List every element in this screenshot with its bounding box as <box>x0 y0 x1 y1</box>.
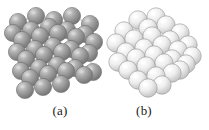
amorphous-cluster-svg <box>104 0 208 104</box>
crystalline-lattice-svg <box>0 0 104 104</box>
lattice-sphere <box>34 78 51 95</box>
panel-crystalline <box>0 0 104 104</box>
lattice-sphere <box>75 66 92 83</box>
amorphous-sphere-group <box>107 8 201 97</box>
lattice-sphere <box>52 75 69 92</box>
caption-b: (b) <box>92 100 196 122</box>
panel-amorphous <box>104 0 208 104</box>
caption-row: (a) (b) <box>0 100 209 130</box>
cluster-sphere <box>139 79 157 97</box>
lattice-sphere <box>16 81 33 98</box>
figure-container: (a) (b) <box>0 0 209 130</box>
crystalline-sphere-group <box>4 7 102 98</box>
